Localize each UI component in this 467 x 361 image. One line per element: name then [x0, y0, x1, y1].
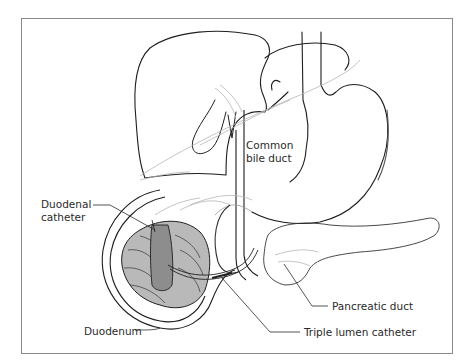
label-line-1: Common: [246, 139, 293, 152]
label-line-2: bile duct: [246, 152, 293, 165]
pancreas: [264, 218, 439, 285]
light-contours: [140, 60, 360, 215]
label-triple-lumen-catheter: Triple lumen catheter: [304, 326, 416, 339]
pancreatic-duct: [275, 250, 318, 266]
duodenal-catheter: [151, 225, 173, 291]
stomach: [252, 32, 388, 224]
label-duodenal-catheter: Duodenal catheter: [41, 198, 91, 223]
common-bile-duct: [236, 110, 258, 280]
liver: [135, 31, 349, 178]
label-common-bile-duct: Common bile duct: [246, 139, 293, 164]
label-duodenum: Duodenum: [84, 325, 142, 338]
label-line-1: Duodenal: [41, 198, 91, 211]
label-line-2: catheter: [41, 211, 91, 224]
label-pancreatic-duct: Pancreatic duct: [332, 300, 413, 313]
